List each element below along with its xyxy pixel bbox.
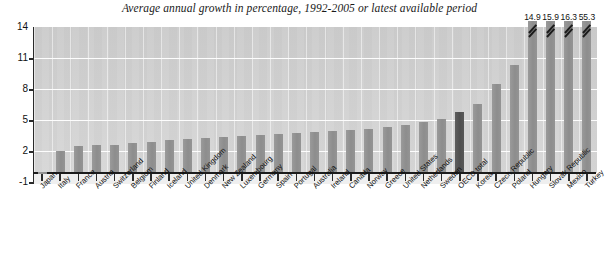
y-axis-label-11: 11	[6, 52, 28, 63]
y-axis-label-2: 2	[6, 145, 28, 156]
bar[interactable]	[56, 151, 65, 172]
bar[interactable]	[401, 125, 410, 172]
bar[interactable]	[346, 130, 355, 172]
clipped-bar-value-label: 55.3	[574, 12, 600, 22]
bar[interactable]	[292, 133, 301, 172]
chart-title: Average annual growth in percentage, 199…	[0, 2, 599, 14]
bar[interactable]	[183, 139, 192, 172]
bar[interactable]	[492, 84, 501, 172]
bar[interactable]	[564, 21, 573, 172]
bar[interactable]	[510, 65, 519, 172]
y-axis-label-5: 5	[6, 114, 28, 125]
vertical-gridline	[597, 27, 598, 173]
bar[interactable]	[546, 21, 555, 172]
bar-series	[33, 27, 596, 174]
y-axis-label-14: 14	[6, 21, 28, 32]
bar[interactable]	[92, 145, 101, 172]
x-axis-category-labels: JapanItalyFranceAustriaSwitzerlandBelgiu…	[0, 184, 599, 274]
bar[interactable]	[455, 112, 464, 172]
y-axis-label-8: 8	[6, 83, 28, 94]
bar[interactable]	[74, 146, 83, 172]
